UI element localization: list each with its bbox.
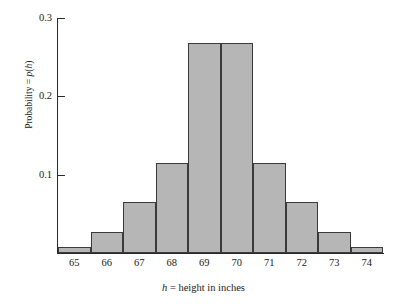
y-axis-title: Probability = p(h) — [25, 0, 35, 195]
y-tick-label-0: 0.3 — [18, 13, 52, 24]
y-axis-title-h: h — [24, 64, 34, 69]
histogram-bar — [318, 232, 351, 253]
x-axis-title-rest: = height in inches — [167, 282, 245, 293]
histogram-bar — [286, 202, 319, 253]
histogram-bar — [351, 247, 384, 253]
y-axis-title-prefix: Probability = — [24, 77, 34, 129]
x-tick-label: 74 — [347, 258, 387, 269]
x-axis-line — [57, 253, 384, 254]
histogram-bar — [156, 163, 189, 253]
x-axis-title: h = height in inches — [0, 283, 407, 294]
histogram-figure: 0.3 0.2 0.1 Probability = p(h) 656667686… — [0, 0, 407, 304]
y-axis-title-paren-open: ( — [24, 69, 34, 72]
histogram-bar — [123, 202, 156, 253]
y-tick-label-1: 0.2 — [18, 91, 52, 102]
plot-area — [58, 18, 383, 253]
y-axis-title-p: p — [24, 72, 34, 77]
histogram-bar — [253, 163, 286, 253]
y-axis-title-paren-close: ) — [24, 61, 34, 64]
histogram-bar — [188, 43, 221, 253]
y-tick-label-2: 0.1 — [18, 170, 52, 181]
histogram-bar — [91, 232, 124, 253]
histogram-bar — [221, 43, 254, 253]
histogram-bar — [58, 247, 91, 253]
